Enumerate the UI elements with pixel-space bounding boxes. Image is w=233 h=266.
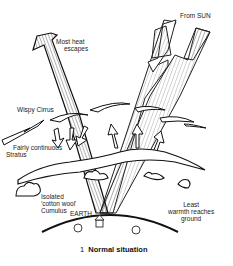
label-least-warmth: Least warmth reaches ground xyxy=(168,201,214,222)
caption-number: 1 xyxy=(80,245,84,254)
label-most-heat-line2: escapes xyxy=(56,45,88,52)
label-wispy-cirrus: Wispy Cirrus xyxy=(17,106,54,113)
label-from-sun: From SUN xyxy=(180,12,211,19)
outgoing-heat-arrow xyxy=(33,33,108,213)
label-stratus-line2: Stratus xyxy=(6,151,62,158)
label-least-warmth-line2: warmth reaches xyxy=(168,208,214,215)
label-earth: EARTH xyxy=(70,210,92,217)
diagram-caption: 1 Normal situation xyxy=(80,245,148,254)
label-most-heat: Most heat escapes xyxy=(56,38,88,52)
incoming-sun-beam xyxy=(100,20,210,213)
label-least-warmth-line1: Least xyxy=(168,201,214,208)
greenhouse-diagram xyxy=(0,0,233,266)
label-cumulus-line1: Isolated xyxy=(41,193,76,200)
caption-title: Normal situation xyxy=(88,245,147,254)
label-most-heat-line1: Most heat xyxy=(56,38,88,45)
label-stratus-line1: Fairly continuous xyxy=(6,144,62,151)
label-stratus: Fairly continuous Stratus xyxy=(6,144,62,158)
label-cumulus-line2: 'cotton wool' xyxy=(41,200,76,207)
label-least-warmth-line3: ground xyxy=(168,215,214,222)
earth-surface xyxy=(42,215,178,232)
